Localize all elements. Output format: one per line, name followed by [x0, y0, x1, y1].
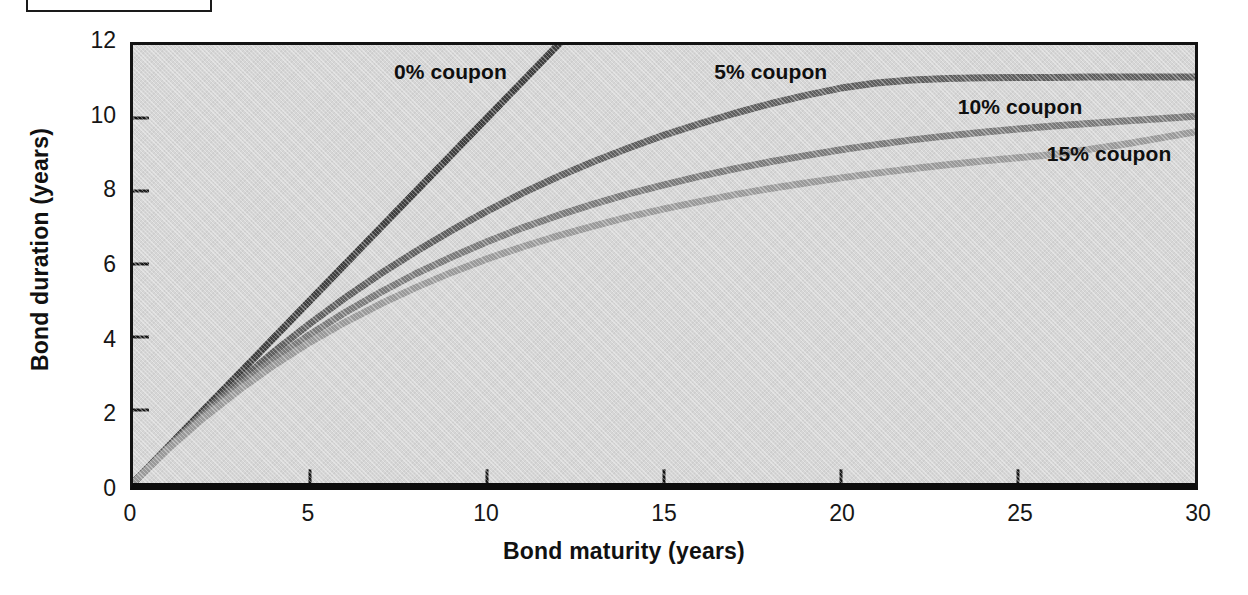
y-tick-label: 0: [62, 475, 116, 502]
x-tick-label: 0: [100, 500, 160, 527]
x-tick-label: 25: [990, 500, 1050, 527]
y-tick-label: 2: [62, 400, 116, 427]
caption-box: [26, 0, 212, 12]
x-tick-label: 5: [278, 500, 338, 527]
y-tick-label: 4: [62, 326, 116, 353]
y-axis-title: Bond duration (years): [27, 70, 54, 430]
annotation-15-coupon: 15% coupon: [1047, 142, 1172, 166]
annotation-5-coupon: 5% coupon: [714, 60, 827, 84]
annotation-0-coupon: 0% coupon: [394, 60, 507, 84]
x-tick-label: 30: [1168, 500, 1228, 527]
y-tick-label: 10: [62, 102, 116, 129]
series-line-5-coupon: [133, 77, 1195, 483]
x-tick-label: 15: [634, 500, 694, 527]
x-axis-title: Bond maturity (years): [0, 538, 1248, 565]
x-tick-label: 10: [456, 500, 516, 527]
x-tick-label: 20: [812, 500, 872, 527]
figure-container: 024681012 051015202530 0% coupon5% coupo…: [0, 0, 1248, 595]
y-tick-label: 8: [62, 176, 116, 203]
y-tick-label: 6: [62, 251, 116, 278]
series-line-10-coupon: [133, 116, 1195, 483]
y-tick-label: 12: [62, 27, 116, 54]
annotation-10-coupon: 10% coupon: [958, 95, 1083, 119]
